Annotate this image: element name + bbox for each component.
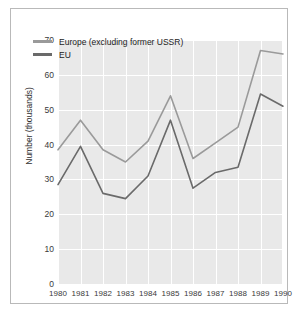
chart-legend: Europe (excluding former USSR) EU — [33, 35, 183, 61]
y-axis-title: Number (thousands) — [24, 56, 34, 196]
x-tick-label: 1990 — [274, 289, 292, 298]
plot-area — [58, 40, 283, 284]
x-tick-label: 1983 — [117, 289, 135, 298]
gridline-horizontal — [58, 284, 283, 285]
y-tick-label: 40 — [45, 140, 54, 150]
x-tick-label: 1981 — [72, 289, 90, 298]
y-tick-label: 30 — [45, 174, 54, 184]
x-tick-label: 1989 — [252, 289, 270, 298]
legend-item-europe: Europe (excluding former USSR) — [33, 35, 183, 48]
x-tick-label: 1987 — [207, 289, 225, 298]
x-axis-ticks: 1980198119821983198419851986198719881989… — [58, 289, 283, 303]
x-tick-label: 1984 — [139, 289, 157, 298]
series-line-europe — [58, 50, 283, 162]
y-tick-label: 0 — [49, 279, 54, 289]
legend-label-europe: Europe (excluding former USSR) — [59, 37, 183, 47]
legend-item-eu: EU — [33, 48, 183, 61]
series-line-eu — [58, 94, 283, 199]
y-tick-label: 20 — [45, 209, 54, 219]
x-tick-label: 1982 — [94, 289, 112, 298]
legend-swatch-eu — [33, 53, 52, 55]
series-lines — [58, 40, 283, 284]
y-tick-label: 50 — [45, 105, 54, 115]
x-tick-label: 1980 — [49, 289, 67, 298]
chart-figure: 010203040506070 198019811982198319841985… — [10, 8, 288, 304]
x-tick-label: 1985 — [162, 289, 180, 298]
y-tick-label: 10 — [45, 244, 54, 254]
y-tick-label: 60 — [45, 70, 54, 80]
legend-label-eu: EU — [59, 50, 71, 60]
legend-swatch-europe — [33, 40, 52, 42]
x-tick-label: 1986 — [184, 289, 202, 298]
x-tick-label: 1988 — [229, 289, 247, 298]
